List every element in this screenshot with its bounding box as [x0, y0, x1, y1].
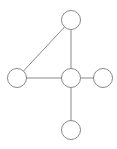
graph-diagram	[0, 0, 117, 149]
nodes-group	[8, 11, 113, 140]
node-center	[62, 69, 81, 88]
node-right	[94, 69, 113, 88]
node-left	[8, 69, 27, 88]
edge-top-left	[17, 20, 71, 78]
edges-group	[17, 20, 103, 130]
node-top	[62, 11, 81, 30]
node-bottom	[62, 121, 81, 140]
